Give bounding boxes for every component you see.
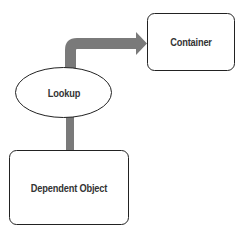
dependent-node-label: Dependent Object [17,151,121,224]
dependent-to-lookup-connector [66,115,74,151]
lookup-node-label: Lookup [22,68,106,118]
lookup-to-container-arrow [65,32,147,72]
container-node-label: Container [153,14,229,70]
